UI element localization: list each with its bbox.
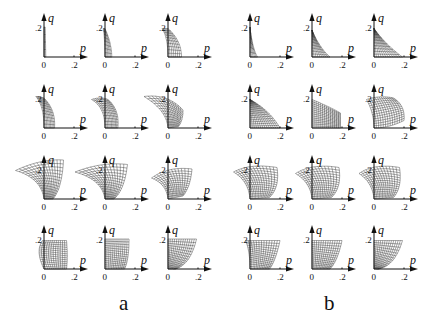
q-tick-label: .2 xyxy=(241,23,248,33)
p-axis-label: p xyxy=(285,112,292,126)
p-axis-label: p xyxy=(203,41,210,55)
q-axis-label: q xyxy=(378,82,384,96)
p-axis-arrow-icon xyxy=(348,266,356,271)
origin-tick-label: 0 xyxy=(372,202,377,212)
p-axis-label: p xyxy=(140,41,147,55)
p-tick-label: .2 xyxy=(339,272,346,282)
p-axis-arrow-icon xyxy=(141,266,149,271)
p-axis-arrow-icon xyxy=(204,266,212,271)
q-axis-label: q xyxy=(316,82,322,96)
q-axis-label: q xyxy=(109,82,115,96)
q-axis-arrow-icon xyxy=(102,84,107,92)
p-axis-arrow-icon xyxy=(80,196,88,201)
q-axis-arrow-icon xyxy=(309,155,314,163)
q-axis-arrow-icon xyxy=(247,155,252,163)
p-axis-arrow-icon xyxy=(204,125,212,130)
mesh-grid xyxy=(250,27,258,57)
q-axis-arrow-icon xyxy=(102,13,107,21)
panel-b-r1c3: qp.20.2 xyxy=(365,11,418,70)
q-tick-label: .2 xyxy=(365,165,372,175)
origin-tick-label: 0 xyxy=(166,131,171,141)
q-tick-label: .2 xyxy=(159,165,166,175)
p-axis-arrow-icon xyxy=(204,196,212,201)
mesh-grid xyxy=(105,239,129,269)
q-tick-label: .2 xyxy=(241,235,248,245)
mesh-grid xyxy=(312,30,330,57)
p-axis-arrow-icon xyxy=(410,266,418,271)
p-axis-label: p xyxy=(409,183,416,197)
mesh-grid xyxy=(312,241,342,270)
small-multiples-plot: qp.20.2qp.20.2qp.20.2qp.20.2qp.20.2qp.20… xyxy=(0,0,431,324)
q-axis-label: q xyxy=(172,11,178,25)
mesh-grid xyxy=(250,100,280,129)
q-axis-label: q xyxy=(109,223,115,237)
p-tick-label: .2 xyxy=(339,60,346,70)
p-axis-label: p xyxy=(347,253,354,267)
p-axis-label: p xyxy=(79,41,86,55)
p-tick-label: .2 xyxy=(339,202,346,212)
q-axis-arrow-icon xyxy=(371,155,376,163)
origin-tick-label: 0 xyxy=(248,272,253,282)
p-tick-label: .2 xyxy=(195,60,202,70)
origin-tick-label: 0 xyxy=(103,131,108,141)
p-tick-label: .2 xyxy=(195,202,202,212)
q-axis-label: q xyxy=(378,153,384,167)
q-tick-label: .2 xyxy=(96,94,103,104)
panel-a-r3c2: qp.20.2 xyxy=(75,153,149,212)
q-axis-arrow-icon xyxy=(41,84,46,92)
origin-tick-label: 0 xyxy=(310,60,315,70)
origin-tick-label: 0 xyxy=(372,131,377,141)
mesh-grid xyxy=(103,29,112,58)
mesh-grid xyxy=(374,241,403,270)
q-axis-label: q xyxy=(254,82,260,96)
q-axis-label: q xyxy=(316,223,322,237)
q-axis-label: q xyxy=(378,11,384,25)
q-tick-label: .2 xyxy=(303,94,310,104)
q-axis-label: q xyxy=(316,153,322,167)
q-axis-label: q xyxy=(316,11,322,25)
origin-tick-label: 0 xyxy=(310,272,315,282)
figure: qp.20.2qp.20.2qp.20.2qp.20.2qp.20.2qp.20… xyxy=(0,0,431,324)
p-axis-arrow-icon xyxy=(80,54,88,59)
q-tick-label: .2 xyxy=(241,94,248,104)
q-axis-label: q xyxy=(48,153,54,167)
p-tick-label: .2 xyxy=(132,131,139,141)
q-tick-label: .2 xyxy=(35,23,42,33)
p-tick-label: .2 xyxy=(71,60,78,70)
p-tick-label: .2 xyxy=(71,131,78,141)
q-axis-label: q xyxy=(48,11,54,25)
q-axis-label: q xyxy=(172,82,178,96)
q-axis-arrow-icon xyxy=(247,13,252,21)
panel-a-r3c1: qp.20.2 xyxy=(16,153,89,212)
q-tick-label: .2 xyxy=(303,235,310,245)
origin-tick-label: 0 xyxy=(42,272,47,282)
origin-tick-label: 0 xyxy=(166,60,171,70)
origin-tick-label: 0 xyxy=(248,131,253,141)
q-tick-label: .2 xyxy=(365,235,372,245)
group-label-a: a xyxy=(119,293,128,314)
origin-tick-label: 0 xyxy=(166,202,171,212)
q-axis-arrow-icon xyxy=(165,225,170,233)
p-tick-label: .2 xyxy=(339,131,346,141)
q-tick-label: .2 xyxy=(241,165,248,175)
mesh-grid xyxy=(312,100,341,129)
origin-tick-label: 0 xyxy=(103,272,108,282)
panel-a-r4c1: qp.20.2 xyxy=(35,223,88,282)
q-tick-label: .2 xyxy=(96,235,103,245)
p-axis-label: p xyxy=(203,183,210,197)
p-axis-label: p xyxy=(285,183,292,197)
mesh-grid xyxy=(374,29,403,58)
p-tick-label: .2 xyxy=(401,202,408,212)
panel-a-r4c2: qp.20.2 xyxy=(96,223,149,282)
q-tick-label: .2 xyxy=(159,23,166,33)
p-axis-arrow-icon xyxy=(141,196,149,201)
q-axis-label: q xyxy=(254,223,260,237)
p-tick-label: .2 xyxy=(132,60,139,70)
origin-tick-label: 0 xyxy=(248,60,253,70)
panel-a-r2c1: qp.20.2 xyxy=(35,82,88,141)
panel-b-r2c1: qp.20.2 xyxy=(241,82,294,141)
p-axis-label: p xyxy=(140,183,147,197)
p-axis-arrow-icon xyxy=(141,54,149,59)
q-tick-label: .2 xyxy=(159,94,166,104)
panel-b-r3c3: qp.20.2 xyxy=(359,153,418,212)
